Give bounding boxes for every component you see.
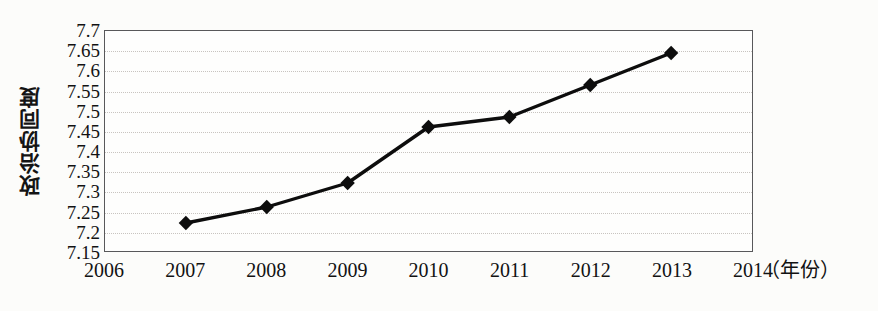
x-axis-tick-label: 2014: [733, 256, 773, 284]
y-axis-tick-label: 7.35: [50, 162, 100, 181]
data-point-marker: [502, 110, 516, 124]
y-axis-tick-label: 7.55: [50, 81, 100, 100]
y-axis-tick-label: 7.7: [50, 21, 100, 40]
y-axis-tick-label: 7.6: [50, 61, 100, 80]
data-line: [186, 53, 671, 223]
data-point-marker: [583, 78, 597, 92]
x-axis-tick-label: 2010: [409, 256, 449, 284]
data-point-marker: [260, 200, 274, 214]
data-point-marker: [664, 46, 678, 60]
y-axis-tick-label: 7.3: [50, 182, 100, 201]
y-axis-tick-label: 7.5: [50, 101, 100, 120]
y-axis-tick-label: 7.25: [50, 202, 100, 221]
data-point-marker: [179, 216, 193, 230]
y-axis-tick-label: 7.45: [50, 121, 100, 140]
x-axis-tick-label: 2007: [165, 256, 205, 284]
x-axis-tick-label: 2013: [652, 256, 692, 284]
y-axis-tick-label: 7.2: [50, 222, 100, 241]
x-axis-tick-label: 2009: [327, 256, 367, 284]
x-axis-tick-labels: （年份） 20062007200820092010201120122013201…: [0, 256, 878, 290]
y-axis-title: 政治协同度: [14, 30, 48, 252]
line-chart: 政治协同度 7.157.27.257.37.357.47.457.57.557.…: [0, 0, 878, 311]
plot-svg: [105, 31, 752, 251]
x-axis-tick-label: 2011: [490, 256, 529, 284]
x-axis-tick-label: 2012: [571, 256, 611, 284]
x-axis-tick-label: 2008: [246, 256, 286, 284]
y-axis-tick-label: 7.4: [50, 142, 100, 161]
x-axis-tick-label: 2006: [84, 256, 124, 284]
y-axis-tick-label: 7.65: [50, 41, 100, 60]
plot-area: [104, 30, 753, 252]
